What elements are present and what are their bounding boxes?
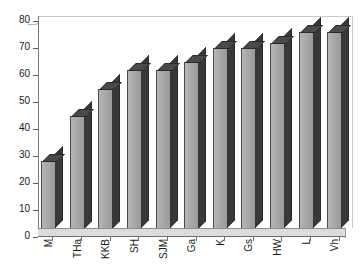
bar-side-face — [198, 47, 206, 229]
x-axis-tick-mark — [253, 237, 254, 241]
x-axis-tick-label: SH — [129, 239, 143, 253]
bar-SH[interactable] — [127, 70, 142, 237]
x-axis-tick-label: L — [301, 239, 315, 245]
x-axis-tick-label: HW — [272, 239, 286, 256]
x-axis-tick-label: M — [43, 239, 57, 247]
x-axis-tick-label: K — [215, 239, 229, 246]
x-axis-tick-label: Ga — [186, 239, 200, 252]
x-axis-label-group: MTHaKKBSHSJMGaKGsHWLVh — [38, 237, 353, 279]
y-axis-tick-label: 80 — [0, 15, 30, 25]
x-axis-tick-mark — [138, 237, 139, 241]
x-axis-tick-label: Vh — [329, 239, 343, 251]
bar-side-face — [170, 55, 178, 228]
bar-M[interactable] — [41, 161, 56, 237]
bar-side-face — [255, 33, 263, 228]
y-axis-tick-label: 60 — [0, 69, 30, 79]
x-axis-tick-mark — [52, 237, 53, 241]
x-axis-tick-mark — [310, 237, 311, 241]
x-axis-tick-mark — [281, 237, 282, 241]
x-axis-tick-label: Gs — [243, 239, 257, 252]
bar-series-group — [38, 16, 353, 237]
x-axis-tick-mark — [196, 237, 197, 241]
bar-side-face — [313, 17, 321, 228]
x-axis-tick-mark — [167, 237, 168, 241]
bar-side-face — [84, 101, 92, 229]
x-axis-tick-mark — [224, 237, 225, 241]
x-axis-tick-label: THa — [72, 239, 86, 258]
y-axis-tick-label: 0 — [0, 231, 30, 241]
y-axis-tick-label: 30 — [0, 150, 30, 160]
y-axis-tick-label: 40 — [0, 123, 30, 133]
bar-side-face — [112, 74, 120, 229]
bar-HW[interactable] — [270, 43, 285, 237]
bar-THa[interactable] — [70, 116, 85, 238]
bar-K[interactable] — [213, 48, 228, 237]
x-axis-tick-label: KKB — [100, 239, 114, 259]
y-axis-tick-label: 20 — [0, 177, 30, 187]
bar-KKB[interactable] — [98, 89, 113, 238]
y-axis-tick-label: 50 — [0, 96, 30, 106]
bar-chart: 01020304050607080 MTHaKKBSHSJMGaKGsHWLVh — [0, 0, 363, 279]
bar-Vh[interactable] — [327, 32, 342, 237]
bar-side-face — [227, 33, 235, 228]
bar-Ga[interactable] — [184, 62, 199, 238]
x-axis-tick-label: SJM — [158, 239, 172, 259]
bar-SJM[interactable] — [156, 70, 171, 237]
x-axis-tick-mark — [339, 237, 340, 241]
y-axis-tick-label: 70 — [0, 42, 30, 52]
bar-Gs[interactable] — [241, 48, 256, 237]
bar-side-face — [341, 17, 349, 228]
x-axis-tick-mark — [81, 237, 82, 241]
x-axis-tick-mark — [110, 237, 111, 241]
bar-side-face — [141, 55, 149, 228]
bar-L[interactable] — [299, 32, 314, 237]
bar-side-face — [284, 28, 292, 228]
y-axis-tick-label: 10 — [0, 204, 30, 214]
